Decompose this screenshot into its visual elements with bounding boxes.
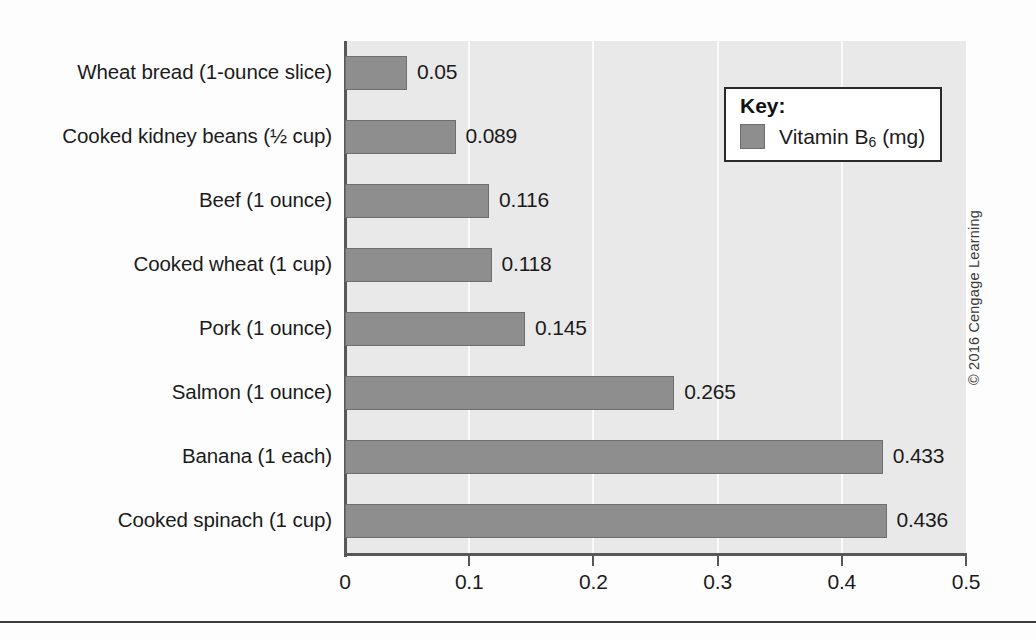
category-label: Beef (1 ounce): [0, 188, 332, 212]
bar: [345, 376, 674, 410]
legend-title: Key:: [740, 95, 940, 117]
x-axis-tick: [592, 556, 594, 566]
category-label: Cooked kidney beans (½ cup): [0, 124, 332, 148]
bar-value-label: 0.433: [893, 444, 945, 468]
bar: [345, 312, 525, 346]
vitamin-b6-bar-chart-figure: 00.10.20.30.40.5 0.050.0890.1160.1180.14…: [0, 0, 1036, 640]
category-label: Pork (1 ounce): [0, 316, 332, 340]
bottom-divider: [0, 621, 1036, 623]
legend-entry: Vitamin B6 (mg): [740, 124, 940, 149]
bar: [345, 440, 883, 474]
x-axis-tick: [841, 556, 843, 566]
category-label: Salmon (1 ounce): [0, 380, 332, 404]
legend-swatch-icon: [740, 124, 765, 149]
x-axis-tick-label: 0.4: [828, 570, 857, 594]
gridline: [717, 41, 719, 553]
legend-entry-label: Vitamin B6 (mg): [779, 125, 925, 149]
bar-value-label: 0.118: [502, 252, 552, 276]
bar-value-label: 0.265: [684, 380, 736, 404]
legend-subscript: 6: [869, 134, 877, 150]
y-axis-line: [344, 41, 347, 557]
category-label: Cooked wheat (1 cup): [0, 252, 332, 276]
bar: [345, 184, 489, 218]
bar: [345, 248, 492, 282]
x-axis-tick-label: 0.1: [455, 570, 484, 594]
x-axis-tick-label: 0.3: [703, 570, 732, 594]
x-axis-tick: [965, 556, 967, 566]
bar: [345, 504, 887, 538]
bar-value-label: 0.089: [466, 124, 518, 148]
bar-value-label: 0.145: [535, 316, 587, 340]
x-axis-tick-label: 0: [339, 570, 350, 594]
x-axis-tick: [468, 556, 470, 566]
category-label: Wheat bread (1-ounce slice): [0, 60, 332, 84]
bar-value-label: 0.436: [897, 508, 949, 532]
bar: [345, 120, 456, 154]
bar: [345, 56, 407, 90]
category-label: Banana (1 each): [0, 444, 332, 468]
gridline: [468, 41, 470, 553]
legend-key-box: Key: Vitamin B6 (mg): [724, 87, 942, 162]
bar-value-label: 0.116: [499, 188, 549, 212]
bar-value-label: 0.05: [417, 60, 457, 84]
x-axis-line: [344, 553, 967, 556]
x-axis-tick-label: 0.2: [579, 570, 608, 594]
copyright-notice: © 2016 Cengage Learning: [966, 210, 982, 385]
gridline: [592, 41, 594, 553]
x-axis-tick-label: 0.5: [952, 570, 981, 594]
category-label: Cooked spinach (1 cup): [0, 508, 332, 532]
x-axis-tick: [717, 556, 719, 566]
